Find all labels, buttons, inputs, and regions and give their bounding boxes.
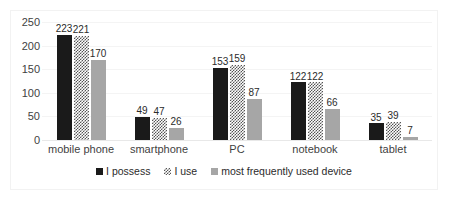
bar[interactable]: [230, 65, 245, 140]
bar-chart: 050100150200250 223221170494726153159871…: [0, 0, 453, 208]
bar-group-bars: 494726: [120, 22, 198, 140]
y-axis-tick-label: 50: [28, 111, 40, 122]
bar[interactable]: [369, 123, 384, 140]
bar-value-label: 26: [170, 117, 181, 128]
bar-column: 159: [230, 22, 245, 140]
bar[interactable]: [135, 117, 150, 140]
bar[interactable]: [247, 99, 262, 140]
bar-value-label: 221: [73, 25, 90, 36]
bar-groups: 223221170494726153159871221226635397: [42, 22, 432, 140]
legend-swatch-icon: [164, 168, 171, 175]
bar-group: 12212266: [276, 22, 354, 140]
bar-column: 223: [57, 22, 72, 140]
bar[interactable]: [74, 36, 89, 140]
bar-value-label: 47: [153, 107, 164, 118]
bar-value-label: 223: [56, 24, 73, 35]
legend-swatch-icon: [96, 168, 103, 175]
bar-column: 35: [369, 22, 384, 140]
bar[interactable]: [91, 60, 106, 140]
bar[interactable]: [152, 118, 167, 140]
bar[interactable]: [169, 128, 184, 140]
y-axis-tick-label: 200: [22, 40, 40, 51]
gridline: [42, 140, 432, 141]
y-axis-tick-label: 100: [22, 87, 40, 98]
bar-group-bars: 15315987: [198, 22, 276, 140]
bar-value-label: 49: [136, 106, 147, 117]
bar[interactable]: [308, 82, 323, 140]
bar-value-label: 170: [90, 49, 107, 60]
bar-value-label: 122: [290, 72, 307, 83]
bar-column: 122: [308, 22, 323, 140]
bar[interactable]: [57, 35, 72, 140]
bar-group-bars: 35397: [354, 22, 432, 140]
legend-item[interactable]: I use: [164, 165, 197, 177]
y-axis-tick-label: 150: [22, 64, 40, 75]
legend-label: I possess: [106, 165, 150, 177]
x-axis-category-label: tablet: [354, 143, 432, 155]
x-axis-category-label: mobile phone: [42, 143, 120, 155]
bar[interactable]: [403, 137, 418, 140]
bar-value-label: 153: [212, 57, 229, 68]
bar-column: 66: [325, 22, 340, 140]
bar-value-label: 122: [307, 72, 324, 83]
legend-label: I use: [174, 165, 197, 177]
bar-column: 122: [291, 22, 306, 140]
bar-column: 47: [152, 22, 167, 140]
bar-group-bars: 12212266: [276, 22, 354, 140]
legend-label: most frequently used device: [221, 165, 352, 177]
bar[interactable]: [325, 109, 340, 140]
bar-value-label: 87: [248, 88, 259, 99]
bar-value-label: 66: [326, 98, 337, 109]
y-axis-tick-label: 250: [22, 17, 40, 28]
legend-swatch-icon: [211, 168, 218, 175]
x-axis-category-labels: mobile phonesmartphonePCnotebooktablet: [42, 143, 432, 155]
bar-group: 494726: [120, 22, 198, 140]
bar-column: 26: [169, 22, 184, 140]
y-axis: 050100150200250: [10, 22, 40, 140]
chart-legend: I possessI usemost frequently used devic…: [10, 165, 438, 177]
bar-group-bars: 223221170: [42, 22, 120, 140]
bar-group: 35397: [354, 22, 432, 140]
bar-column: 49: [135, 22, 150, 140]
bar-value-label: 159: [229, 54, 246, 65]
bar-group: 223221170: [42, 22, 120, 140]
bar-column: 39: [386, 22, 401, 140]
legend-item[interactable]: most frequently used device: [211, 165, 352, 177]
bar-column: 153: [213, 22, 228, 140]
bar-column: 87: [247, 22, 262, 140]
bar[interactable]: [213, 68, 228, 140]
bar-value-label: 35: [370, 113, 381, 124]
bar-value-label: 39: [387, 111, 398, 122]
bar-column: 170: [91, 22, 106, 140]
bar-column: 221: [74, 22, 89, 140]
bar-value-label: 7: [407, 126, 413, 137]
legend-item[interactable]: I possess: [96, 165, 150, 177]
bar-column: 7: [403, 22, 418, 140]
x-axis-category-label: notebook: [276, 143, 354, 155]
x-axis-category-label: smartphone: [120, 143, 198, 155]
bar[interactable]: [386, 122, 401, 140]
y-axis-tick-label: 0: [34, 135, 40, 146]
bar-group: 15315987: [198, 22, 276, 140]
x-axis-category-label: PC: [198, 143, 276, 155]
bar[interactable]: [291, 82, 306, 140]
